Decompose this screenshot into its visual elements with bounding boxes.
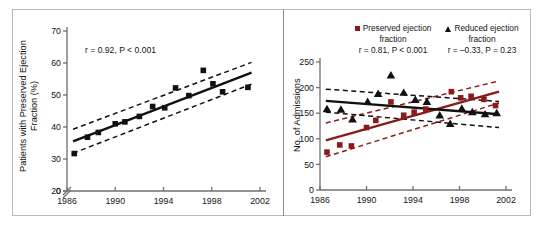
data-point-square bbox=[201, 68, 207, 74]
reduced-ef-triangle-marker-icon bbox=[445, 26, 451, 32]
data-point-square bbox=[468, 94, 474, 100]
right-panel-y-axis-label: No. of Admissions bbox=[292, 55, 306, 175]
legend-label-preserved-line1: Preserved ejection bbox=[363, 23, 432, 33]
data-point-square bbox=[150, 104, 156, 110]
data-point-triangle bbox=[457, 104, 466, 111]
data-point-triangle bbox=[387, 71, 396, 78]
data-point-triangle bbox=[399, 88, 408, 95]
data-point-square bbox=[364, 125, 370, 131]
legend-entry-preserved-ejection-fraction: Preserved ejection fraction r = 0.81, P … bbox=[349, 23, 437, 56]
data-point-square bbox=[122, 119, 128, 125]
x-tick-label: 2002 bbox=[250, 196, 270, 206]
data-point-triangle bbox=[348, 115, 357, 122]
y-tick-label: 0 bbox=[309, 185, 314, 195]
legend-annotation-preserved: r = 0.81, P < 0.001 bbox=[349, 45, 437, 56]
data-point-square bbox=[373, 118, 379, 124]
data-point-square bbox=[411, 109, 417, 115]
x-tick-label: 1990 bbox=[357, 195, 377, 205]
data-point-triangle bbox=[423, 98, 432, 105]
left-panel-y-axis-label: Patients with Preserved Ejection Fractio… bbox=[18, 26, 42, 186]
x-tick-label: 1994 bbox=[403, 195, 423, 205]
data-point-triangle bbox=[363, 98, 372, 105]
data-point-square bbox=[423, 106, 429, 112]
data-point-square bbox=[210, 81, 216, 87]
data-point-square bbox=[186, 93, 192, 99]
legend-label-reduced-line2: fraction bbox=[437, 34, 527, 45]
data-point-square bbox=[401, 112, 407, 118]
data-point-square bbox=[458, 95, 464, 101]
data-point-square bbox=[449, 89, 455, 95]
data-point-square bbox=[245, 85, 251, 91]
left-panel-plot: 203040506070019861990199419982002 bbox=[13, 9, 283, 216]
x-tick-label: 1990 bbox=[105, 196, 125, 206]
data-point-square bbox=[162, 105, 168, 111]
data-point-square bbox=[85, 134, 91, 140]
data-point-square bbox=[493, 103, 499, 109]
data-point-square bbox=[96, 130, 102, 136]
data-point-square bbox=[220, 89, 226, 95]
data-point-square bbox=[324, 149, 330, 155]
data-point-square bbox=[173, 85, 179, 91]
y-tick-label: 50 bbox=[51, 90, 61, 100]
data-point-triangle bbox=[337, 105, 346, 112]
data-point-triangle bbox=[435, 111, 444, 118]
data-point-square bbox=[388, 99, 394, 105]
x-tick-label: 1994 bbox=[154, 196, 174, 206]
left-panel: 203040506070019861990199419982002 bbox=[13, 9, 283, 216]
y-tick-label: 30 bbox=[51, 154, 61, 164]
data-point-triangle bbox=[323, 105, 332, 112]
y-tick-label: 70 bbox=[51, 26, 61, 36]
legend-label-preserved-line2: fraction bbox=[349, 34, 437, 45]
data-point-square bbox=[71, 151, 77, 157]
y-tick-label: 40 bbox=[51, 122, 61, 132]
legend-label-reduced-line1: Reduced ejection bbox=[454, 23, 518, 33]
data-point-triangle bbox=[492, 109, 501, 116]
x-tick-label: 1986 bbox=[310, 195, 330, 205]
left-panel-correlation-annotation: r = 0.92, P < 0.001 bbox=[85, 45, 156, 55]
data-point-square bbox=[112, 121, 118, 127]
y-tick-label-zero: 0 bbox=[56, 186, 61, 196]
data-point-triangle bbox=[411, 96, 420, 103]
data-point-square bbox=[337, 142, 343, 148]
y-tick-label: 60 bbox=[51, 58, 61, 68]
x-tick-label: 2002 bbox=[496, 195, 516, 205]
figure-container: 203040506070019861990199419982002 Patien… bbox=[0, 0, 543, 235]
data-point-square bbox=[481, 97, 487, 103]
data-point-square bbox=[349, 143, 355, 149]
x-tick-label: 1998 bbox=[450, 195, 470, 205]
legend-entry-reduced-ejection-fraction: Reduced ejection fraction r = –0.33, P =… bbox=[437, 23, 527, 56]
preserved-ef-square-marker-icon bbox=[355, 26, 360, 31]
data-point-square bbox=[137, 114, 143, 120]
x-tick-label: 1998 bbox=[202, 196, 222, 206]
legend-annotation-reduced: r = –0.33, P = 0.23 bbox=[437, 45, 527, 56]
x-tick-label: 1986 bbox=[57, 196, 77, 206]
